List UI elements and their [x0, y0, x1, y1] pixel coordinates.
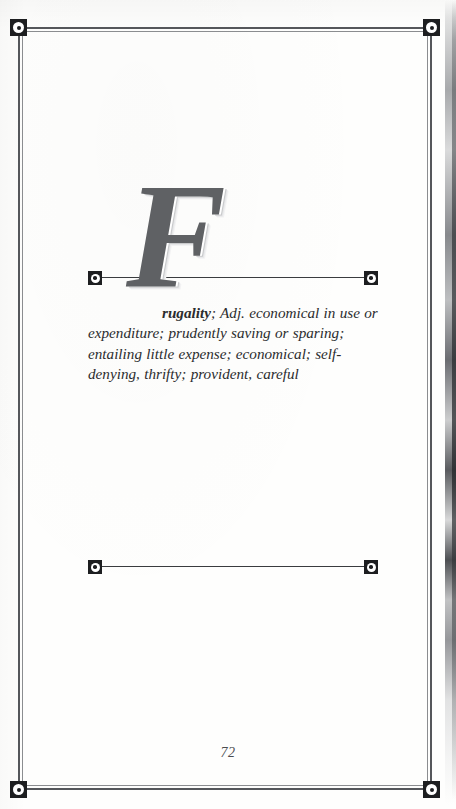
- dot-shape: [430, 788, 434, 792]
- frame-rule-left-outer: [18, 27, 20, 790]
- frame-rule-top-outer: [18, 27, 432, 29]
- ring-shape: [91, 274, 100, 283]
- divider-rule-bottom: [88, 560, 378, 574]
- ring-shape: [91, 563, 100, 572]
- divider-ornament-right-icon: [364, 560, 378, 574]
- corner-ornament-bottom-right-icon: [423, 781, 440, 798]
- scan-gutter-shadow-core: [452, 0, 456, 809]
- corner-ornament-top-right-icon: [423, 19, 440, 36]
- frame-rule-right-outer: [430, 27, 432, 790]
- corner-ornament-bottom-left-icon: [10, 781, 27, 798]
- divider-ornament-left-icon: [88, 271, 102, 285]
- ring-shape: [367, 274, 376, 283]
- divider-ornament-left-icon: [88, 560, 102, 574]
- ring-shape: [426, 784, 437, 795]
- page-number: 72: [0, 745, 456, 761]
- ring-shape: [367, 563, 376, 572]
- frame-rule-left-inner: [22, 27, 23, 790]
- dot-shape: [430, 26, 434, 30]
- dot-shape: [93, 565, 97, 569]
- scanned-book-page: F rugality; Adj. economical in use or ex…: [0, 0, 456, 809]
- frame-rule-bottom-outer: [18, 788, 432, 790]
- dot-shape: [369, 565, 373, 569]
- ring-shape: [426, 22, 437, 33]
- scan-gutter-shadow: [445, 0, 456, 809]
- corner-ornament-top-left-icon: [10, 19, 27, 36]
- divider-line: [95, 566, 371, 567]
- ring-shape: [13, 22, 24, 33]
- divider-ornament-right-icon: [364, 271, 378, 285]
- frame-rule-right-inner: [427, 27, 428, 790]
- dot-shape: [17, 788, 21, 792]
- decorative-page-frame: [18, 27, 432, 790]
- frame-rule-bottom-inner: [18, 785, 432, 786]
- dot-shape: [17, 26, 21, 30]
- dot-shape: [369, 276, 373, 280]
- ring-shape: [13, 784, 24, 795]
- drop-cap-letter: F: [126, 161, 226, 311]
- dot-shape: [93, 276, 97, 280]
- frame-rule-top-inner: [18, 31, 432, 32]
